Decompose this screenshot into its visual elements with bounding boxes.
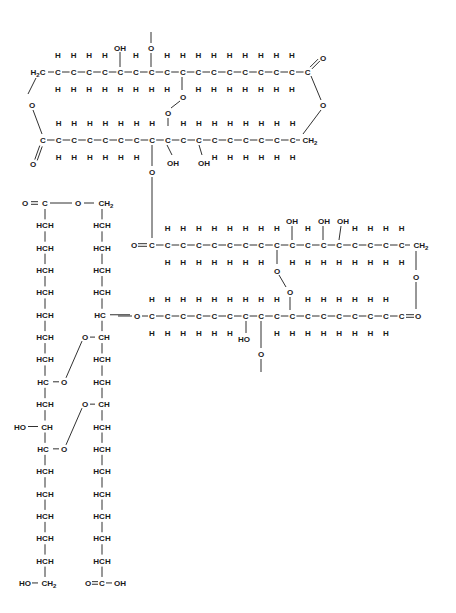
chain1-carbon: C xyxy=(242,68,248,77)
chain3-carbon: C xyxy=(243,241,249,250)
hydrogen: H xyxy=(212,153,218,162)
chain4-carbon: C xyxy=(180,312,186,321)
bond xyxy=(303,110,321,134)
hydrogen: H xyxy=(134,119,140,128)
hydrogen: H xyxy=(149,119,155,128)
chain3-carbon: C xyxy=(196,241,202,250)
hydrogen: H xyxy=(103,119,109,128)
left-methylene: HCH xyxy=(36,490,54,499)
double-bond xyxy=(310,59,318,67)
chain1-carbon: C xyxy=(102,68,108,77)
double-bond xyxy=(35,146,40,160)
hydrogen: H xyxy=(305,329,311,338)
hydrogen: H xyxy=(133,85,139,94)
hydrogen: H xyxy=(149,329,155,338)
hydroxyl-group: OH xyxy=(286,217,298,226)
chain2-carbon: C xyxy=(274,136,280,145)
bond xyxy=(199,145,202,155)
ether-oxygen: O xyxy=(148,44,154,53)
hydrogen: H xyxy=(180,329,186,338)
chain1-carbon: C xyxy=(211,68,217,77)
right-methylene: HCH xyxy=(93,557,111,566)
hydrogen: H xyxy=(259,153,265,162)
chain4-carbon: C xyxy=(383,312,389,321)
ester-oxygen: O xyxy=(29,101,35,110)
hydrogen: H xyxy=(259,119,265,128)
hydrogen: H xyxy=(212,329,218,338)
chain1-carbon: C xyxy=(55,68,61,77)
hydrogen: H xyxy=(118,153,124,162)
double-bond xyxy=(37,146,42,160)
hydrogen: H xyxy=(274,51,280,60)
hydrogen: H xyxy=(258,51,264,60)
hydrogen: H xyxy=(227,119,233,128)
hydrogen: H xyxy=(258,295,264,304)
hydrogen: H xyxy=(102,85,108,94)
left-methylene: HCH xyxy=(36,266,54,275)
chain2-carbon: C xyxy=(259,136,265,145)
h2c-group: H2C xyxy=(31,68,46,78)
hydrogen: H xyxy=(196,329,202,338)
hydrogen: H xyxy=(274,119,280,128)
hydrogen: H xyxy=(180,258,186,267)
hydrogen: H xyxy=(258,224,264,233)
chain2-carbon: C xyxy=(103,136,109,145)
ester-oxygen: O xyxy=(134,312,140,321)
hydrogen: H xyxy=(227,224,233,233)
chain1-carbon: C xyxy=(274,68,280,77)
right-methine: CH xyxy=(98,333,110,342)
hydrogen: H xyxy=(227,85,233,94)
ether-bridge xyxy=(66,341,82,378)
hydrogen: H xyxy=(118,119,124,128)
hydrogen: H xyxy=(133,51,139,60)
chain4-carbon: C xyxy=(399,312,405,321)
hydrogen: H xyxy=(196,258,202,267)
hydrogen: H xyxy=(180,224,186,233)
hydrogen: H xyxy=(305,224,311,233)
hydrogen: H xyxy=(196,224,202,233)
chain4-carbon: C xyxy=(290,312,296,321)
right-methylene: HCH xyxy=(93,355,111,364)
hydrogen: H xyxy=(165,224,171,233)
hydrogen: H xyxy=(368,224,374,233)
right-methylene: HCH xyxy=(93,534,111,543)
peroxide-oxygen: O xyxy=(274,267,280,276)
carbonyl-oxygen: O xyxy=(30,160,36,169)
chain4-carbon: C xyxy=(305,312,311,321)
right-methylene: HCH xyxy=(93,266,111,275)
chain2-carbon: C xyxy=(290,136,296,145)
carbonyl-carbon: C xyxy=(42,199,48,208)
hydroxyl-group: HO xyxy=(238,335,250,344)
hydrogen: H xyxy=(55,51,61,60)
hydrogen: H xyxy=(368,258,374,267)
chain2-carbon: C xyxy=(118,136,124,145)
ether-oxygen: O xyxy=(82,333,88,342)
hydrogen: H xyxy=(211,85,217,94)
left-methylene: HCH xyxy=(36,333,54,342)
ch2-group: CH2 xyxy=(42,579,58,589)
chain4-carbon: C xyxy=(227,312,233,321)
carbonyl-oxygen: O xyxy=(131,241,137,250)
hydrogen: H xyxy=(290,119,296,128)
carboxyl-carbon: C xyxy=(99,579,105,588)
chain4-carbon: C xyxy=(243,312,249,321)
bond xyxy=(279,275,286,287)
peroxide-oxygen: O xyxy=(287,288,293,297)
left-methine: HC xyxy=(37,378,49,387)
chain3-carbon: C xyxy=(180,241,186,250)
hydrogen: H xyxy=(196,51,202,60)
right-methine: HC xyxy=(94,311,106,320)
bond xyxy=(28,78,36,94)
hydrogen: H xyxy=(336,329,342,338)
hydrogen: H xyxy=(352,329,358,338)
chain1-carbon: C xyxy=(149,68,155,77)
carbonyl-oxygen: O xyxy=(320,54,326,63)
hydrogen: H xyxy=(149,295,155,304)
chain3-carbon: C xyxy=(149,241,155,250)
hydrogen: H xyxy=(71,85,77,94)
hydrogen: H xyxy=(212,224,218,233)
ester-oxygen: O xyxy=(75,199,81,208)
chain1-carbon: C xyxy=(71,68,77,77)
hydrogen: H xyxy=(165,295,171,304)
hydrogen: H xyxy=(258,85,264,94)
